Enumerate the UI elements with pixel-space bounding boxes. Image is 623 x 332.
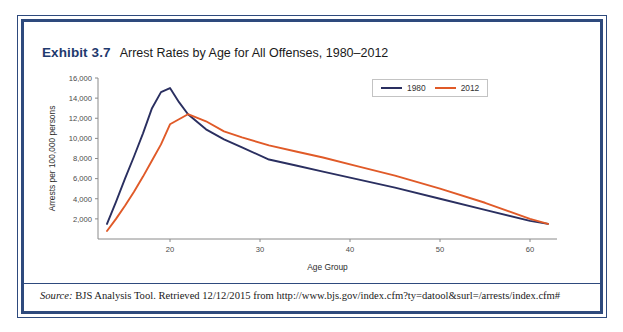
exhibit-figure: Exhibit 3.7Arrest Rates by Age for All O… [0,0,623,332]
svg-text:30: 30 [256,245,264,254]
svg-text:Age Group: Age Group [307,262,348,272]
svg-text:60: 60 [526,245,534,254]
source-note: Source: BJS Analysis Tool. Retrieved 12/… [40,290,600,301]
legend-swatch-2012 [435,87,456,89]
page-title: Arrest Rates by Age for All Offenses, 19… [120,46,389,60]
svg-text:2,000: 2,000 [73,215,92,224]
legend-label-2012: 2012 [461,83,480,93]
source-text: BJS Analysis Tool. Retrieved 12/12/2015 … [73,290,561,301]
chart-plot-area: 2,0004,0006,0008,00010,00012,00014,00016… [42,68,582,273]
line-chart-svg: 2,0004,0006,0008,00010,00012,00014,00016… [42,68,582,273]
legend-entry-2012: 2012 [435,83,480,93]
source-divider [24,283,600,284]
svg-text:10,000: 10,000 [69,134,92,143]
svg-text:16,000: 16,000 [69,74,92,83]
svg-text:4,000: 4,000 [73,195,92,204]
svg-text:40: 40 [346,245,354,254]
svg-text:6,000: 6,000 [73,174,92,183]
legend-swatch-1980 [381,87,402,89]
svg-text:20: 20 [166,245,174,254]
svg-text:14,000: 14,000 [69,94,92,103]
chart-legend: 1980 2012 [372,79,488,97]
legend-label-1980: 1980 [407,83,426,93]
svg-text:8,000: 8,000 [73,154,92,163]
svg-text:12,000: 12,000 [69,114,92,123]
figure-title-row: Exhibit 3.7Arrest Rates by Age for All O… [42,43,562,61]
svg-text:Arrests per 100,000 persons: Arrests per 100,000 persons [47,106,57,212]
exhibit-number: Exhibit 3.7 [42,45,111,60]
legend-entry-1980: 1980 [381,83,426,93]
svg-text:50: 50 [436,245,444,254]
source-label: Source: [40,290,73,301]
